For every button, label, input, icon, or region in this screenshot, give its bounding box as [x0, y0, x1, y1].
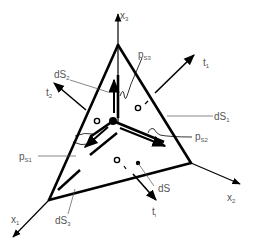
p-s3-label: pS3	[138, 49, 152, 61]
leader-lines	[38, 80, 213, 214]
face-centroid-3	[114, 157, 119, 162]
hidden-edge-1	[90, 133, 117, 155]
ds2-label: dS2	[54, 69, 70, 81]
centroid-1-dash	[145, 101, 148, 104]
x2-label: x2	[227, 192, 236, 204]
x3-label: x3	[120, 10, 129, 22]
t1-top-arrow	[155, 55, 194, 93]
face-centroid-1	[135, 105, 140, 110]
ti-bottom-arrow	[133, 174, 156, 200]
tetrahedron-diagram: x3 x1 x2 pS3 pS2 pS1 dS2 dS1 dS3 dS t1 t…	[0, 0, 253, 249]
ti-bottom-label: ti	[152, 206, 156, 218]
ds-label: dS	[158, 183, 171, 194]
ds3-label: dS3	[55, 215, 71, 227]
t2-arrow	[54, 83, 86, 110]
x1-label: x1	[11, 214, 20, 226]
t1-top-label: t1	[203, 57, 210, 69]
ds1-label: dS1	[214, 111, 230, 123]
p-s1-label: pS1	[19, 151, 33, 163]
x1-axis	[13, 200, 49, 237]
x2-axis	[191, 163, 240, 184]
centroid-3-dash	[124, 166, 126, 169]
origin-point	[109, 117, 117, 125]
p-s2-label: pS2	[195, 131, 209, 143]
p-s2-vector	[120, 128, 165, 146]
face-centroid-2	[94, 118, 99, 123]
t2-label: t2	[46, 87, 53, 99]
